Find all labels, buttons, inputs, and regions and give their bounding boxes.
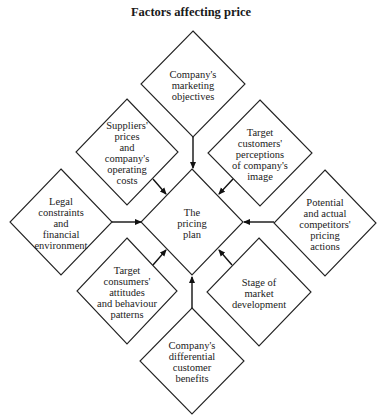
arrow-stage-market-development-to-center <box>219 250 232 265</box>
label-line: attitudes <box>97 287 157 298</box>
label-line: perceptions <box>232 149 288 160</box>
label-line: Target <box>232 127 288 138</box>
label-line: market <box>232 288 286 299</box>
label-line: financial <box>34 229 87 240</box>
label-line: customer <box>169 362 216 373</box>
label-line: and actual <box>299 208 350 219</box>
label-line: differential <box>169 351 216 362</box>
label-line: The <box>177 207 207 218</box>
arrow-target-consumers-attitudes-to-center <box>153 250 166 265</box>
label-line: objectives <box>170 91 217 102</box>
factor-label-legal-constraints: Legalconstraintsandfinancialenvironment <box>34 196 87 251</box>
arrow-suppliers-prices-to-center <box>153 179 166 194</box>
label-line: consumers' <box>97 276 157 287</box>
label-line: pricing <box>177 218 207 229</box>
label-line: environment <box>34 240 87 251</box>
factor-label-suppliers-prices: Suppliers'pricesandcompany'soperatingcos… <box>105 120 149 186</box>
label-line: of company's <box>232 160 288 171</box>
label-line: development <box>232 299 286 310</box>
label-line: image <box>232 171 288 182</box>
label-line: pricing <box>299 230 350 241</box>
label-line: Company's <box>170 69 217 80</box>
factor-label-differential-benefits: Company'sdifferentialcustomerbenefits <box>169 340 216 384</box>
label-line: and behaviour <box>97 298 157 309</box>
label-line: constraints <box>34 207 87 218</box>
label-line: marketing <box>170 80 217 91</box>
label-line: costs <box>105 175 149 186</box>
label-line: Company's <box>169 340 216 351</box>
label-line: actions <box>299 241 350 252</box>
label-line: customers' <box>232 138 288 149</box>
label-line: competitors' <box>299 219 350 230</box>
label-line: Stage of <box>232 277 286 288</box>
label-line: Suppliers' <box>105 120 149 131</box>
label-line: Potential <box>299 197 350 208</box>
label-line: operating <box>105 164 149 175</box>
factor-label-competitors-pricing: Potentialand actualcompetitors'pricingac… <box>299 197 350 252</box>
arrow-target-customers-perceptions-to-center <box>219 179 233 194</box>
factor-label-target-consumers-attitudes: Targetconsumers'attitudesand behaviourpa… <box>97 265 157 320</box>
label-line: Target <box>97 265 157 276</box>
label-line: plan <box>177 229 207 240</box>
label-line: company's <box>105 153 149 164</box>
label-line: Legal <box>34 196 87 207</box>
center-label-pricing-plan: Thepricingplan <box>177 207 207 240</box>
label-line: and <box>34 218 87 229</box>
label-line: patterns <box>97 309 157 320</box>
factor-label-stage-market-development: Stage ofmarketdevelopment <box>232 277 286 310</box>
factor-label-marketing-objectives: Company'smarketingobjectives <box>170 69 217 102</box>
label-line: benefits <box>169 373 216 384</box>
factor-label-target-customers-perceptions: Targetcustomers'perceptionsof company'si… <box>232 127 288 182</box>
label-line: and <box>105 142 149 153</box>
label-line: prices <box>105 131 149 142</box>
diagram-title: Factors affecting price <box>0 5 382 20</box>
